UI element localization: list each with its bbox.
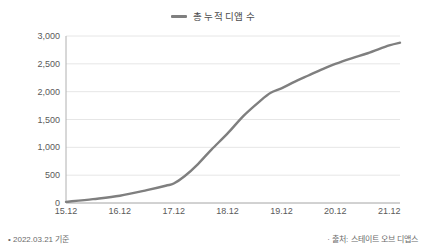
- plot-area: [66, 36, 400, 203]
- chart-card: 총 누적 디앱 수 05001,0001,5002,0002,5003,000 …: [0, 0, 426, 250]
- y-axis-labels: 05001,0001,5002,0002,5003,000: [0, 36, 60, 203]
- chart-legend: 총 누적 디앱 수: [0, 6, 426, 26]
- y-tick-label: 3,000: [0, 31, 60, 41]
- series-line-total-cumulative-dapps: [66, 43, 400, 202]
- x-axis-labels: 15.1216.1217.1218.1219.1220.1221.12: [66, 206, 400, 220]
- footer-note-source: · 출처: 스테이트 오브 디앱스: [327, 233, 418, 244]
- x-tick-label: 19.12: [270, 206, 293, 216]
- y-tick-label: 2,000: [0, 87, 60, 97]
- line-chart-svg: [66, 36, 400, 203]
- x-tick-label: 16.12: [109, 206, 132, 216]
- footer-note-date: • 2022.03.21 기준: [8, 233, 69, 244]
- x-tick-label: 20.12: [324, 206, 347, 216]
- legend-line-swatch-icon: [171, 15, 187, 18]
- y-tick-label: 0: [0, 198, 60, 208]
- x-tick-label: 21.12: [378, 206, 401, 216]
- y-tick-label: 1,000: [0, 142, 60, 152]
- y-tick-label: 1,500: [0, 115, 60, 125]
- y-tick-label: 2,500: [0, 59, 60, 69]
- chart-footer: • 2022.03.21 기준 · 출처: 스테이트 오브 디앱스: [0, 230, 426, 246]
- legend-label: 총 누적 디앱 수: [193, 9, 256, 23]
- x-tick-label: 17.12: [162, 206, 185, 216]
- y-tick-label: 500: [0, 170, 60, 180]
- x-tick-label: 15.12: [55, 206, 78, 216]
- x-tick-label: 18.12: [216, 206, 239, 216]
- gridlines: [66, 36, 400, 203]
